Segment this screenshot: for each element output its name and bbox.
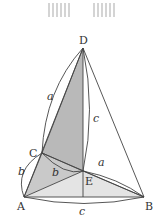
label-B: B xyxy=(145,200,153,213)
label-D: D xyxy=(79,34,88,47)
edge-label-a-right: a xyxy=(98,156,105,169)
edge-label-c-bottom: c xyxy=(79,205,85,218)
edge-label-b-inner: b xyxy=(52,166,59,179)
label-A: A xyxy=(16,200,26,213)
arc-c-bottom xyxy=(24,197,144,204)
watermark xyxy=(48,3,115,17)
shaded-triangle-dce xyxy=(42,48,83,171)
label-C: C xyxy=(29,147,37,160)
geometry-diagram: D C E A B a c b b a c xyxy=(0,0,167,223)
edge-label-b-left: b xyxy=(18,165,25,178)
label-E: E xyxy=(85,175,93,188)
arc-c-right xyxy=(83,48,90,171)
edge-label-c-right: c xyxy=(93,112,99,125)
edge-label-a-left: a xyxy=(47,90,54,103)
